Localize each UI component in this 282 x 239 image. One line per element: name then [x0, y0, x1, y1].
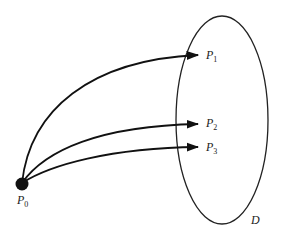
diagram-canvas: P1 P2 P3 P0 D [0, 0, 282, 239]
label-region-d: D [251, 214, 260, 226]
label-p2: P2 [206, 117, 217, 132]
label-p0: P0 [17, 194, 28, 209]
arrow-p0-p1 [22, 55, 198, 183]
arrow-p0-p3 [22, 147, 198, 183]
source-point-p0 [16, 178, 29, 191]
label-p3: P3 [206, 141, 217, 156]
diagram-svg [0, 0, 282, 239]
region-d-ellipse [176, 16, 268, 224]
label-p1: P1 [206, 49, 217, 64]
